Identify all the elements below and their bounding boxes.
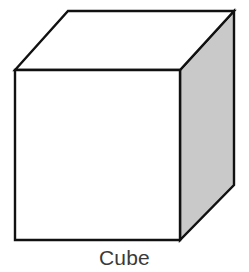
cube-figure: Cube [0, 0, 249, 272]
cube-illustration [0, 0, 249, 272]
cube-front-face [15, 70, 180, 240]
figure-caption: Cube [0, 245, 249, 271]
